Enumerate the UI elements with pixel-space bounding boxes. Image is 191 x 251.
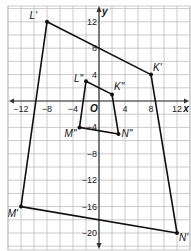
tick-labels: xyO−12−8−448121284−4−8−12−16−20 (13, 6, 189, 238)
y-tick-label: −8 (87, 149, 97, 159)
vertex-point (19, 205, 23, 209)
y-tick-label: 12 (87, 17, 97, 27)
vertex-label: L" (74, 73, 84, 84)
vertex-label: M' (8, 208, 19, 219)
x-axis-arrow-left (9, 99, 14, 104)
x-axis-label: x (182, 103, 189, 114)
vertex-label: N" (122, 128, 133, 139)
y-axis-label: y (101, 6, 108, 17)
vertex-point (78, 125, 82, 129)
vertex-point (84, 79, 88, 83)
x-tick-label: 4 (122, 104, 127, 114)
vertex-point (117, 132, 121, 136)
vertex-point (110, 92, 114, 96)
y-tick-label: 4 (92, 70, 97, 80)
x-tick-label: 12 (172, 104, 182, 114)
y-tick-label: −16 (82, 202, 97, 212)
vertex-label: N' (179, 232, 189, 243)
y-tick-label: −12 (82, 175, 97, 185)
y-tick-label: −20 (82, 228, 97, 238)
vertex-label: M" (65, 128, 77, 139)
vertex-label: L' (30, 10, 39, 21)
vertex-point (149, 73, 153, 77)
vertex-point (45, 20, 49, 24)
vertex-label: K' (153, 62, 163, 73)
origin-label: O (90, 103, 98, 114)
x-tick-label: −12 (13, 104, 28, 114)
x-tick-label: 8 (148, 104, 153, 114)
x-tick-label: −4 (68, 104, 78, 114)
x-tick-label: −8 (42, 104, 52, 114)
coordinate-plane: xyO−12−8−448121284−4−8−12−16−20 L'K'N'M'… (0, 0, 191, 251)
vertex-label: K" (114, 81, 125, 92)
